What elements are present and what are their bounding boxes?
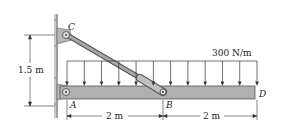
- load-arrowhead: [203, 82, 207, 87]
- beam-diagram: 1.5 m 2 m 2 m 300 N/m C A B D: [0, 0, 283, 128]
- load-arrowhead: [238, 82, 242, 87]
- label-span-ab: 2 m: [106, 111, 124, 121]
- pin-b: [160, 89, 166, 95]
- load-arrowhead: [134, 82, 138, 87]
- label-point-b: B: [165, 100, 173, 110]
- load-arrowhead: [221, 82, 225, 87]
- dimension-spans: [67, 100, 257, 120]
- label-height: 1.5 m: [18, 65, 44, 75]
- load-arrowhead: [255, 82, 259, 87]
- load-arrowhead: [82, 82, 86, 87]
- load-arrowhead: [169, 82, 173, 87]
- load-arrowhead: [186, 82, 190, 87]
- pin-c: [63, 32, 70, 39]
- load-arrowhead: [117, 82, 121, 87]
- load-arrowhead: [100, 82, 104, 87]
- label-load: 300 N/m: [212, 48, 252, 58]
- pin-a: [63, 89, 70, 96]
- distributed-load: [65, 61, 259, 86]
- label-point-d: D: [258, 89, 266, 99]
- label-span-bd: 2 m: [203, 111, 221, 121]
- label-point-c: C: [68, 22, 75, 32]
- label-point-a: A: [69, 100, 77, 110]
